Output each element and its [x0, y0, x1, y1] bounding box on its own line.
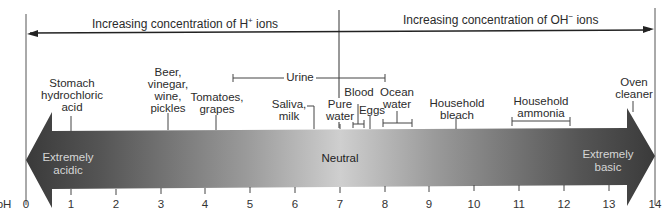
- tick-label-10: 10: [464, 198, 484, 210]
- tick-label-11: 11: [509, 198, 529, 210]
- label-oven-cleaner: Oven cleaner: [614, 76, 654, 100]
- tick-label-7: 7: [330, 198, 350, 210]
- tick-label-12: 12: [554, 198, 574, 210]
- label-saliva-milk: Saliva, milk: [270, 98, 308, 122]
- label-beer-vinegar: Beer, vinegar, wine, pickles: [146, 66, 190, 114]
- label-household-bleach: Household bleach: [426, 97, 488, 121]
- region-extremely-basic: Extremely basic: [580, 148, 636, 174]
- region-neutral: Neutral: [310, 152, 370, 165]
- tick-label-8: 8: [375, 198, 395, 210]
- tick-label-9: 9: [419, 198, 439, 210]
- label-urine: Urine: [284, 71, 316, 83]
- tick-label-1: 1: [61, 198, 81, 210]
- arrow-left-head-icon: [27, 30, 38, 37]
- tick-label-14: 14: [645, 198, 665, 210]
- marker-saliva: [307, 106, 314, 129]
- oh-ion-label: Increasing concentration of OH− ions: [403, 12, 598, 27]
- label-ocean-water: Ocean water: [378, 86, 416, 110]
- tick-label-4: 4: [195, 198, 215, 210]
- region-extremely-acidic: Extremely acidic: [40, 151, 96, 177]
- tick-label-13: 13: [599, 198, 619, 210]
- label-pure-water: Pure water: [324, 98, 356, 122]
- label-tomatoes-grapes: Tomatoes, grapes: [186, 91, 248, 115]
- tick-label-3: 3: [151, 198, 171, 210]
- label-household-ammonia: Household ammonia: [510, 95, 572, 119]
- ph-axis-label: pH: [0, 198, 14, 210]
- tick-label-0: 0: [16, 198, 36, 210]
- h-ion-label: Increasing concentration of H+ ions: [92, 16, 278, 31]
- label-blood: Blood: [341, 86, 377, 98]
- label-stomach-acid: Stomach hydrochloric acid: [36, 77, 108, 113]
- tick-label-5: 5: [240, 198, 260, 210]
- arrow-right-head-icon: [643, 26, 654, 33]
- tick-label-2: 2: [106, 198, 126, 210]
- tick-label-6: 6: [285, 198, 305, 210]
